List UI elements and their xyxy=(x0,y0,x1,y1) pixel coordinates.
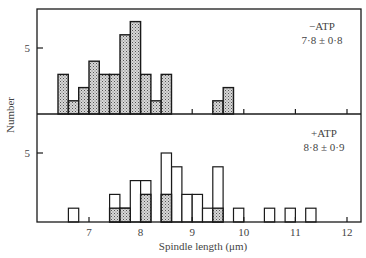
plus-atp-label: +ATP xyxy=(311,127,337,139)
top-y-tick-label-5: 5 xyxy=(25,42,31,54)
histogram-bin-total xyxy=(172,167,182,222)
histogram-figure: 5 5 789101112 Number Spindle length (μm)… xyxy=(0,0,366,258)
x-tick-label: 9 xyxy=(189,226,195,238)
histogram-bin-stippled xyxy=(79,88,89,114)
histogram-bin-stippled xyxy=(68,101,78,114)
histogram-bin-stippled xyxy=(120,208,130,222)
histogram-bin-stippled xyxy=(110,208,120,222)
histogram-bin-stippled xyxy=(213,208,223,222)
plus-atp-histogram xyxy=(68,153,316,222)
minus-atp-stat: 7·8 ± 0·8 xyxy=(302,34,343,46)
histogram-bin-stippled xyxy=(110,74,120,114)
chart-svg: 5 5 789101112 Number Spindle length (μm)… xyxy=(0,0,366,258)
x-tick-label: 8 xyxy=(138,226,144,238)
histogram-bin-total xyxy=(234,208,244,222)
y-axis-label: Number xyxy=(4,97,16,133)
x-axis-label: Spindle length (μm) xyxy=(159,240,248,253)
histogram-bin-stippled xyxy=(141,194,151,222)
histogram-bin-stippled xyxy=(223,88,233,114)
histogram-bin-total xyxy=(192,194,202,222)
histogram-bin-stippled xyxy=(213,101,223,114)
histogram-bin-stippled xyxy=(89,61,99,114)
histogram-bin-total xyxy=(306,208,316,222)
plus-atp-stat: 8·8 ± 0·9 xyxy=(304,141,345,153)
histogram-bin-total xyxy=(285,208,295,222)
histogram-bin-stippled xyxy=(120,35,130,114)
histogram-bin-stippled xyxy=(161,74,171,114)
minus-atp-label: −ATP xyxy=(309,20,335,32)
histogram-bin-stippled xyxy=(130,22,140,114)
histogram-bin-stippled xyxy=(99,74,109,114)
histogram-bin-total xyxy=(264,208,274,222)
minus-atp-histogram xyxy=(58,22,234,114)
histogram-bin-total xyxy=(203,208,213,222)
histogram-bin-stippled xyxy=(161,194,171,222)
x-tick-label: 10 xyxy=(238,226,250,238)
histogram-bin-total xyxy=(182,194,192,222)
x-tick-label: 12 xyxy=(342,226,353,238)
bottom-y-tick-label-5: 5 xyxy=(25,147,31,159)
x-tick-label: 11 xyxy=(290,226,301,238)
histogram-bin-total xyxy=(68,208,78,222)
x-tick-labels: 789101112 xyxy=(86,226,352,238)
histogram-bin-stippled xyxy=(58,74,68,114)
x-tick-label: 7 xyxy=(86,226,92,238)
histogram-bin-stippled xyxy=(141,74,151,114)
histogram-bin-total xyxy=(130,181,140,222)
histogram-bin-stippled xyxy=(151,101,161,114)
